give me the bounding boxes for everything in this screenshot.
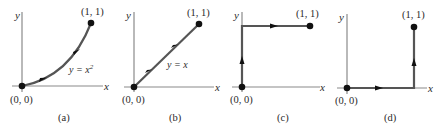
panel-caption: (a) xyxy=(58,112,70,124)
x-axis-label: x xyxy=(427,82,433,94)
parabola-path xyxy=(22,23,91,86)
start-point xyxy=(19,83,26,90)
x-axis-label: x xyxy=(214,81,220,93)
path-diagrams: y x (1, 1) (0, 0) y = x2 (a) y x (1, 1) … xyxy=(0,0,440,132)
end-point xyxy=(307,23,314,30)
panel-a: y x (1, 1) (0, 0) y = x2 (a) xyxy=(10,6,109,124)
x-axis-label: x xyxy=(319,81,325,93)
panel-b: y x (1, 1) (0, 0) y = x (b) xyxy=(122,7,220,124)
corner-path xyxy=(242,26,310,87)
start-point xyxy=(131,84,138,91)
y-axis-label: y xyxy=(125,9,131,21)
curve-label: y = x xyxy=(166,59,188,70)
end-point xyxy=(88,20,95,27)
y-axis-label: y xyxy=(233,9,239,21)
y-axis-label: y xyxy=(338,11,344,23)
direction-arrow-icon xyxy=(240,56,245,64)
panel-c: y x (1, 1) (0, 0) (c) xyxy=(230,8,325,124)
end-point-label: (1, 1) xyxy=(187,7,210,19)
curve-label: y = x2 xyxy=(68,63,94,75)
end-point xyxy=(411,24,418,31)
y-axis-label: y xyxy=(14,9,20,21)
end-point-label: (1, 1) xyxy=(402,9,425,21)
start-point-label: (0, 0) xyxy=(122,94,145,106)
start-point-label: (0, 0) xyxy=(335,95,358,107)
end-point-label: (1, 1) xyxy=(296,8,319,20)
start-point xyxy=(344,85,351,92)
start-point-label: (0, 0) xyxy=(230,94,253,106)
corner-path xyxy=(347,27,414,88)
end-point-label: (1, 1) xyxy=(81,6,104,18)
start-point xyxy=(239,84,246,91)
x-axis-label: x xyxy=(103,80,109,92)
panel-d: y x (1, 1) (0, 0) (d) xyxy=(335,9,433,124)
direction-arrow-icon xyxy=(412,58,417,66)
direction-arrow-icon xyxy=(375,86,383,91)
line-path xyxy=(134,24,199,87)
panel-caption: (d) xyxy=(384,112,397,124)
end-point xyxy=(196,21,203,28)
direction-arrow-icon xyxy=(270,24,278,29)
panel-caption: (b) xyxy=(169,112,182,124)
start-point-label: (0, 0) xyxy=(10,94,33,106)
panel-caption: (c) xyxy=(277,112,289,124)
